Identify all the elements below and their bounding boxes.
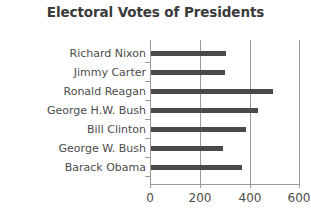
category-label: Ronald Reagan (0, 82, 146, 101)
bar-row: Bill Clinton (0, 120, 311, 139)
bar-chart: Electoral Votes of Presidents Richard Ni… (0, 0, 311, 217)
bar-barack-obama (151, 165, 242, 170)
x-axis-label-600: 600 (277, 191, 311, 205)
bar-richard-nixon (151, 51, 226, 56)
category-label: Bill Clinton (0, 120, 146, 139)
category-label: Barack Obama (0, 158, 146, 177)
category-tick (145, 176, 150, 177)
bar-george-w-bush (151, 146, 223, 151)
category-label: Richard Nixon (0, 44, 146, 63)
x-axis-tick (200, 184, 201, 188)
x-axis-tick (250, 184, 251, 188)
bar-george-hw-bush (151, 108, 258, 113)
bar-row: Jimmy Carter (0, 63, 311, 82)
bar-row: Barack Obama (0, 158, 311, 177)
bar-row: George W. Bush (0, 139, 311, 158)
x-axis-label-400: 400 (228, 191, 272, 205)
bar-bill-clinton (151, 127, 246, 132)
bar-row: George H.W. Bush (0, 101, 311, 120)
bar-row: Ronald Reagan (0, 82, 311, 101)
category-label: George H.W. Bush (0, 101, 146, 120)
x-axis-label-200: 200 (178, 191, 222, 205)
category-label: George W. Bush (0, 139, 146, 158)
x-axis-label-0: 0 (128, 191, 172, 205)
x-axis-line (150, 184, 300, 185)
category-label: Jimmy Carter (0, 63, 146, 82)
bar-jimmy-carter (151, 70, 225, 75)
chart-title: Electoral Votes of Presidents (0, 4, 311, 20)
x-axis-tick (299, 184, 300, 188)
bar-row: Richard Nixon (0, 44, 311, 63)
bar-ronald-reagan (151, 89, 273, 94)
x-axis-tick (150, 184, 151, 188)
